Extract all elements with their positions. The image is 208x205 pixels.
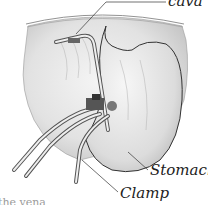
figure-canvas: cava Stomach Clamp the vena xyxy=(0,0,208,205)
label-clamp: Clamp xyxy=(120,186,169,201)
label-cava: cava xyxy=(168,0,203,9)
label-stomach: Stomach xyxy=(150,163,208,178)
clamp-block-top xyxy=(68,38,80,43)
caption-fragment: the vena xyxy=(0,196,46,205)
